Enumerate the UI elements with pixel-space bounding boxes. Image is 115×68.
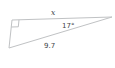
triangle-figure: x 17° 9.7 [0, 0, 115, 68]
right-angle-marker [11, 20, 19, 27]
hypotenuse-label: 9.7 [44, 42, 55, 50]
triangle-outline [9, 17, 112, 48]
geometry-diagram: x 17° 9.7 [0, 0, 115, 68]
angle-label: 17° [62, 22, 74, 30]
side-x-label: x [51, 8, 56, 17]
